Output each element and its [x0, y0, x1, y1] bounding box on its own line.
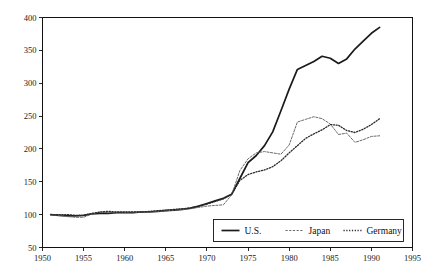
x-tick-label: 1950 [34, 253, 51, 263]
y-tick-label: 400 [24, 13, 37, 23]
y-tick-label: 350 [24, 45, 37, 55]
legend-label-germany: Germany [367, 226, 403, 236]
x-tick-label: 1955 [75, 253, 92, 263]
x-tick-label: 1970 [198, 253, 215, 263]
y-tick-label: 50 [28, 243, 37, 253]
chart-canvas: 50100150200250300350400 1950195519601965… [0, 0, 435, 279]
y-tick-label: 100 [24, 210, 37, 220]
x-tick-label: 1985 [322, 253, 339, 263]
x-tick-label: 1990 [363, 253, 380, 263]
x-tick-label: 1965 [157, 253, 174, 263]
line-chart: 50100150200250300350400 1950195519601965… [0, 0, 435, 279]
legend-label-us: U.S. [245, 226, 262, 236]
x-tick-label: 1995 [404, 253, 421, 263]
x-tick-label: 1975 [240, 253, 257, 263]
y-tick-label: 250 [24, 111, 37, 121]
x-tick-label: 1980 [281, 253, 298, 263]
legend-label-japan: Japan [309, 226, 331, 236]
x-tick-label: 1960 [116, 253, 133, 263]
chart-legend: U.S.JapanGermany [214, 220, 404, 242]
y-tick-label: 150 [24, 177, 37, 187]
y-tick-label: 200 [24, 144, 37, 154]
y-tick-label: 300 [24, 78, 37, 88]
